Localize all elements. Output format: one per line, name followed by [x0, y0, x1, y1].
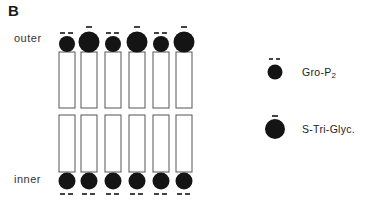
legend-label-s-tri-glyc: S-Tri-Glyc.: [302, 123, 355, 135]
s-tri-glyc-head: [127, 32, 148, 53]
lipid-columns: [59, 27, 195, 194]
s-tri-glyc-head: [79, 32, 100, 53]
membrane-diagram: [0, 0, 375, 202]
legend-label-main: Gro-P: [302, 66, 332, 78]
inner-tail: [105, 115, 121, 172]
outer-tail: [153, 52, 169, 108]
gro-p2-head: [153, 173, 170, 190]
inner-tail: [81, 115, 97, 172]
lipid-column: [127, 27, 148, 194]
gro-p2-head: [105, 173, 122, 190]
gro-p2-head: [153, 36, 169, 52]
gro-p2-head: [105, 36, 121, 52]
gro-p2-head: [59, 173, 76, 190]
legend-s-tri-glyc-symbol: [265, 116, 285, 139]
legend-gro-p2-symbol: [268, 59, 283, 80]
outer-tail: [105, 52, 121, 108]
legend-label-sub: 2: [332, 71, 337, 80]
gro-p2-head: [81, 173, 98, 190]
inner-tail: [129, 115, 145, 172]
lipid-column: [79, 27, 100, 194]
outer-tail: [81, 52, 97, 108]
lipid-column: [174, 27, 195, 194]
inner-tail: [176, 115, 192, 172]
lipid-column: [105, 33, 122, 194]
gro-p2-head: [59, 36, 75, 52]
lipid-column: [153, 33, 170, 194]
inner-tail: [59, 115, 75, 172]
gro-p2-head: [129, 173, 146, 190]
inner-tail: [153, 115, 169, 172]
s-tri-glyc-head: [174, 32, 195, 53]
outer-tail: [59, 52, 75, 108]
legend-label-gro-p2: Gro-P2: [302, 66, 336, 80]
gro-p2-head: [176, 173, 193, 190]
outer-tail: [129, 52, 145, 108]
lipid-column: [59, 33, 76, 194]
outer-tail: [176, 52, 192, 108]
